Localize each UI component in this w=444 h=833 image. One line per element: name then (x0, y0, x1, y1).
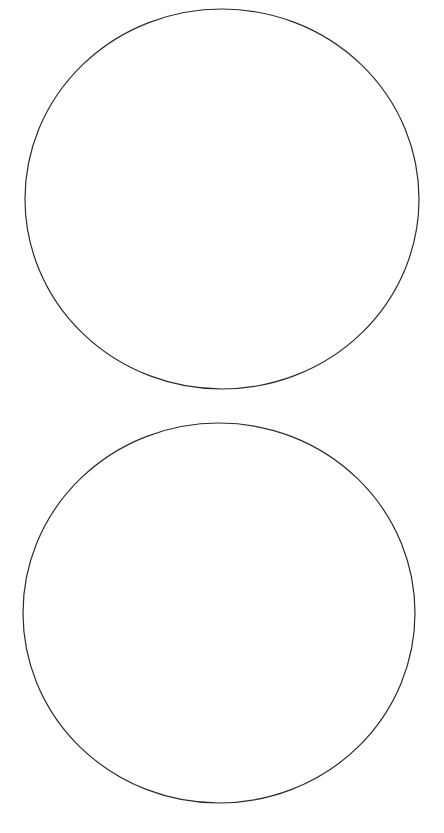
diagram-canvas (0, 0, 444, 833)
top-circle (25, 9, 419, 389)
bottom-circle (23, 423, 415, 803)
